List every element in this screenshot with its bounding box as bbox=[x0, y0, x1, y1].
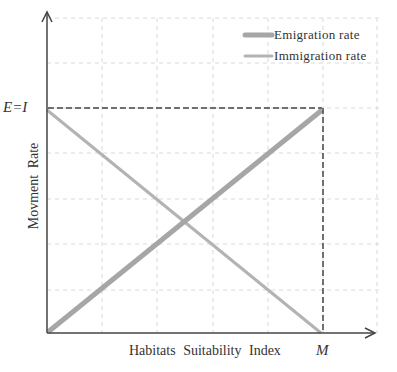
x-max-label: M bbox=[316, 342, 329, 359]
legend-immigration-label: Immigration rate bbox=[274, 48, 367, 64]
y-max-label: E=I bbox=[3, 99, 27, 116]
grid bbox=[47, 18, 380, 333]
x-axis-label: Habitats Suitability Index bbox=[129, 343, 281, 359]
legend-emigration-label: Emigration rate bbox=[274, 27, 360, 43]
y-axis-label: Movment Rate bbox=[26, 143, 42, 230]
